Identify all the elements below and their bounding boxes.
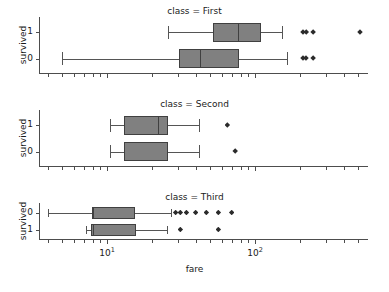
x-tick-minor (248, 167, 249, 170)
x-tick-minor (232, 74, 233, 77)
x-tick-minor (241, 240, 242, 243)
x-tick-major (255, 240, 256, 244)
x-tick-major (107, 167, 108, 171)
y-tick (36, 59, 39, 60)
median-line (93, 224, 94, 237)
whisker-low (110, 125, 124, 126)
x-tick-minor (222, 167, 223, 170)
flier-point (184, 210, 190, 216)
x-tick-minor (178, 167, 179, 170)
cap-low (110, 119, 111, 131)
x-tick-minor (196, 74, 197, 77)
x-tick-minor (358, 74, 359, 77)
flier-point (216, 227, 222, 233)
x-tick-minor (300, 74, 301, 77)
x-tick-major (107, 74, 108, 78)
y-tick (36, 213, 39, 214)
x-tick-minor (196, 240, 197, 243)
cap-low (86, 226, 87, 234)
cap-low (48, 209, 49, 217)
plot-area-third (39, 203, 368, 240)
whisker-low (62, 59, 179, 60)
panel-title: class = Second (0, 99, 389, 109)
x-tick-minor (48, 167, 49, 170)
x-tick-minor (210, 74, 211, 77)
flier-point (229, 210, 235, 216)
median-line (158, 116, 159, 135)
x-tick-minor (152, 240, 153, 243)
x-tick-minor (48, 74, 49, 77)
flier-point (204, 210, 210, 216)
x-tick-minor (100, 74, 101, 77)
x-tick-minor (210, 167, 211, 170)
x-tick-minor (152, 167, 153, 170)
flier-point (232, 148, 238, 154)
y-tick-label-1: 1 (19, 119, 33, 129)
x-tick-label: 101 (99, 246, 115, 258)
whisker-high (135, 213, 171, 214)
x-tick-minor (196, 167, 197, 170)
x-tick-minor (241, 74, 242, 77)
flier-point (310, 55, 316, 61)
x-tick-minor (358, 167, 359, 170)
flier-point (216, 210, 222, 216)
figure-boxplot-fare-by-class-survived: class = Firstsurvived10class = Secondsur… (0, 0, 389, 292)
x-tick-minor (210, 240, 211, 243)
x-tick-minor (232, 167, 233, 170)
x-tick-minor (62, 240, 63, 243)
x-tick-major (255, 167, 256, 171)
x-axis-label: fare (0, 264, 389, 274)
flier-point (193, 210, 199, 216)
x-tick-minor (326, 240, 327, 243)
x-tick-minor (93, 240, 94, 243)
x-tick-minor (152, 74, 153, 77)
x-tick-minor (344, 167, 345, 170)
x-tick-minor (344, 240, 345, 243)
median-line (200, 49, 201, 68)
box-second-1 (124, 116, 169, 135)
y-tick (36, 32, 39, 33)
flier-point (178, 210, 184, 216)
x-tick-minor (232, 240, 233, 243)
flier-point (178, 227, 184, 233)
x-tick-minor (222, 240, 223, 243)
x-tick-minor (93, 167, 94, 170)
x-tick-minor (358, 240, 359, 243)
x-tick-minor (326, 167, 327, 170)
x-tick-minor (178, 240, 179, 243)
cap-high (199, 145, 200, 157)
x-tick-minor (222, 74, 223, 77)
x-tick-major (107, 240, 108, 244)
plot-area-second (39, 110, 368, 167)
flier-point (310, 29, 316, 35)
cap-high (282, 26, 283, 38)
cap-high (287, 52, 288, 64)
whisker-high (136, 230, 167, 231)
flier-point (225, 122, 231, 128)
y-tick (36, 125, 39, 126)
y-tick (36, 152, 39, 153)
box-first-0 (179, 49, 239, 68)
cap-high (199, 119, 200, 131)
x-tick-minor (93, 74, 94, 77)
median-line (93, 207, 94, 220)
x-tick-minor (74, 74, 75, 77)
x-tick-minor (178, 74, 179, 77)
x-tick-minor (248, 74, 249, 77)
x-tick-minor (300, 167, 301, 170)
x-tick-minor (100, 240, 101, 243)
whisker-low (48, 213, 92, 214)
whisker-low (168, 32, 213, 33)
box-first-1 (213, 23, 261, 42)
x-tick-minor (84, 74, 85, 77)
cap-low (168, 26, 169, 38)
x-tick-major (255, 74, 256, 78)
box-third-1 (91, 224, 136, 237)
y-tick-label-0: 0 (19, 53, 33, 63)
x-tick-minor (248, 240, 249, 243)
flier-point (304, 29, 310, 35)
y-tick-label-0: 0 (19, 207, 33, 217)
cap-low (62, 52, 63, 64)
whisker-high (239, 59, 287, 60)
cap-low (110, 145, 111, 157)
